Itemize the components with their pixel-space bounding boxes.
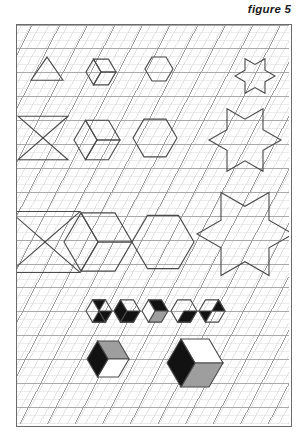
row-5-large-filled-cubes [87, 339, 223, 387]
row-1-unit-scale-triangle [31, 57, 63, 80]
row-4-small-filled [86, 300, 225, 322]
grid-line-diag-left [228, 25, 289, 424]
row-3-triple-scale-triangle-lower [17, 242, 80, 272]
grid-line-diag-right [17, 25, 54, 424]
grid-line-diag-left [17, 25, 35, 424]
row-1-unit-scale-hexagram [235, 59, 275, 94]
grid-line-diag-right [17, 25, 35, 424]
grid-line-diag-right [228, 25, 289, 424]
row-4-small-filled-hexagon-one-black-rhombus-rhombus-right [178, 311, 198, 322]
grid-line-diag-left [219, 25, 289, 424]
row-4-small-filled-hexagon-three-black-triangles-tri-top [93, 300, 106, 311]
coarse-grid [17, 25, 289, 424]
shapes-layer [17, 57, 289, 387]
grid-line-diag-right [247, 25, 289, 424]
grid-line-diag-left [228, 25, 289, 424]
grid-line-diag-left [17, 25, 54, 424]
grid-line-diag-right [17, 25, 91, 424]
grid-line-diag-right [219, 25, 289, 424]
row-3-triple-scale-hexagram [197, 192, 289, 275]
figure-plate [16, 24, 292, 427]
row-2-double-scale-hexagram [209, 109, 281, 171]
fine-grid [17, 25, 289, 424]
grid-line-diag-left [44, 25, 274, 424]
grid-line-diag-right [228, 25, 289, 424]
grid-line-diag-left [35, 25, 265, 424]
isometric-grid-canvas [17, 25, 289, 424]
figure-caption: figure 5 [248, 3, 291, 15]
grid-line-diag-left [17, 25, 91, 424]
row-3-triple-scale [17, 192, 289, 275]
row-4-small-filled-hexagon-black-triangles-tri-b [199, 311, 212, 322]
row-2-double-scale-triangle-lower [18, 138, 68, 160]
grid-line-diag-left [247, 25, 289, 424]
row-4-small-filled-hexagon-black-triangles-tri-a [212, 300, 225, 311]
